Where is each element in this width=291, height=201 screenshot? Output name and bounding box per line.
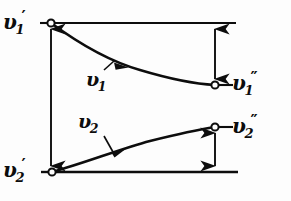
curve-v2-leader-line bbox=[104, 136, 113, 152]
curve-v1-leader-line bbox=[104, 61, 114, 70]
label-v2-inlet-prime: ′ bbox=[21, 155, 24, 174]
v2-outlet-node bbox=[211, 123, 218, 130]
diagram-canvas bbox=[0, 0, 291, 201]
label-v2-outlet: υ2″ bbox=[232, 116, 261, 136]
curve-v2 bbox=[52, 127, 215, 172]
v1-inlet-node bbox=[47, 19, 54, 26]
label-v1-outlet: υ1″ bbox=[232, 73, 261, 93]
label-v2-inlet: υ2′ bbox=[3, 160, 29, 180]
label-curve-v1: υ1 bbox=[86, 70, 107, 89]
label-v2-outlet-prime: ″ bbox=[250, 111, 256, 130]
curve-v1 bbox=[51, 23, 215, 85]
label-v1-inlet: υ1′ bbox=[3, 12, 29, 32]
label-curve-v1-subscript: 1 bbox=[98, 79, 107, 94]
label-v1-inlet-prime: ′ bbox=[21, 7, 24, 26]
v1-outlet-node bbox=[211, 81, 218, 88]
label-curve-v2: υ2 bbox=[78, 112, 99, 131]
figure-container: υ1′ υ1″ υ2′ υ2″ υ1 υ2 bbox=[0, 0, 291, 201]
label-curve-v2-subscript: 2 bbox=[90, 121, 99, 136]
label-curve-v2-symbol: υ bbox=[78, 110, 91, 132]
label-v1-outlet-prime: ″ bbox=[250, 68, 256, 87]
label-curve-v1-symbol: υ bbox=[86, 68, 99, 90]
v2-inlet-node bbox=[48, 168, 55, 175]
